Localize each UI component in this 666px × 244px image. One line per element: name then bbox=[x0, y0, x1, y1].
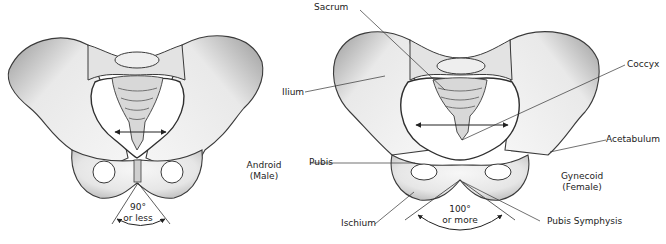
android-angle-value: 90° bbox=[120, 202, 156, 213]
sacrum-label: Sacrum bbox=[314, 2, 348, 13]
gynecoid-label: Gynecoid (Female) bbox=[554, 171, 610, 193]
android-angle-qualifier: or less bbox=[120, 213, 156, 224]
gynecoid-angle-qualifier: or more bbox=[440, 215, 480, 226]
gynecoid-type: Gynecoid bbox=[554, 171, 610, 182]
ischium-label: Ischium bbox=[341, 218, 376, 229]
acetabulum-label: Acetabulum bbox=[606, 134, 660, 145]
left-obturator-foramen bbox=[93, 161, 115, 183]
gynecoid-sex: (Female) bbox=[554, 182, 610, 193]
coccyx-label: Coccyx bbox=[627, 59, 659, 70]
android-pelvis bbox=[8, 36, 263, 226]
gynecoid-pelvis bbox=[305, 10, 625, 230]
right-ilium-f bbox=[505, 32, 599, 155]
left-obturator-foramen-f bbox=[411, 164, 437, 180]
android-sex: (Male) bbox=[238, 171, 290, 182]
right-obturator-foramen-f bbox=[485, 164, 511, 180]
ilium-label: Ilium bbox=[282, 87, 304, 98]
android-type: Android bbox=[238, 160, 290, 171]
gynecoid-angle: 100° or more bbox=[440, 204, 480, 226]
diagram-canvas bbox=[0, 0, 666, 244]
right-obturator-foramen bbox=[161, 161, 183, 183]
pubis-symphysis-label: Pubis Symphysis bbox=[547, 216, 622, 227]
android-label: Android (Male) bbox=[238, 160, 290, 182]
pubis-label: Pubis bbox=[309, 157, 333, 168]
pelvis-comparison-diagram: Android (Male) 90° or less Gynecoid (Fem… bbox=[0, 0, 666, 244]
ischium-leader bbox=[375, 192, 414, 224]
android-angle: 90° or less bbox=[120, 202, 156, 224]
gynecoid-angle-value: 100° bbox=[440, 204, 480, 215]
